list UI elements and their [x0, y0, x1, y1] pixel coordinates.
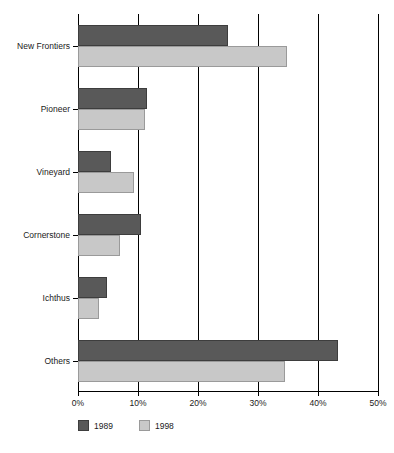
gridline — [138, 14, 139, 392]
bar-1989 — [78, 151, 111, 172]
x-axis-tick — [378, 392, 379, 396]
x-axis-line — [78, 391, 379, 392]
category-label: Ichthus — [43, 293, 70, 303]
bar-1998 — [78, 361, 285, 382]
category-label: Others — [44, 356, 70, 366]
legend-item[interactable]: 1998 — [139, 420, 174, 431]
legend-swatch-icon — [139, 420, 150, 431]
bar-1998 — [78, 235, 120, 256]
gridline — [378, 14, 379, 392]
category-tick — [73, 361, 78, 362]
bar-1989 — [78, 340, 338, 361]
legend-item[interactable]: 1989 — [78, 420, 113, 431]
bar-group: Pioneer — [78, 88, 378, 130]
bar-1989 — [78, 25, 228, 46]
chart-legend: 19891998 — [78, 420, 174, 431]
plot-area: 0%10%20%30%40%50% New FrontiersPioneerVi… — [78, 14, 378, 392]
category-tick — [73, 172, 78, 173]
bar-1989 — [78, 214, 141, 235]
gridline — [318, 14, 319, 392]
x-axis-tick — [138, 392, 139, 396]
bar-group: Cornerstone — [78, 214, 378, 256]
x-axis-tick — [318, 392, 319, 396]
bar-1998 — [78, 46, 287, 67]
bar-1989 — [78, 277, 107, 298]
bar-1998 — [78, 109, 145, 130]
bar-1998 — [78, 298, 99, 319]
x-axis-tick-label: 0% — [58, 398, 98, 408]
bar-group: Ichthus — [78, 277, 378, 319]
category-label: Vineyard — [37, 167, 70, 177]
category-label: New Frontiers — [17, 41, 70, 51]
x-axis-tick-label: 50% — [358, 398, 394, 408]
category-tick — [73, 46, 78, 47]
legend-label: 1998 — [155, 421, 174, 431]
legend-label: 1989 — [94, 421, 113, 431]
bar-1989 — [78, 88, 147, 109]
x-axis-tick — [258, 392, 259, 396]
x-axis-tick-label: 10% — [118, 398, 158, 408]
bar-group: New Frontiers — [78, 25, 378, 67]
gridline — [258, 14, 259, 392]
bar-chart: 1989 and 1998 0%10%20%30%40%50% New Fron… — [0, 0, 394, 453]
category-label: Cornerstone — [23, 230, 70, 240]
x-axis-tick-label: 20% — [178, 398, 218, 408]
category-label: Pioneer — [41, 104, 70, 114]
x-axis-tick-label: 40% — [298, 398, 338, 408]
x-axis-tick — [78, 392, 79, 396]
category-tick — [73, 298, 78, 299]
bar-1998 — [78, 172, 134, 193]
legend-swatch-icon — [78, 420, 89, 431]
category-tick — [73, 109, 78, 110]
gridline — [198, 14, 199, 392]
x-axis-tick-label: 30% — [238, 398, 278, 408]
y-axis-line — [78, 14, 79, 392]
category-tick — [73, 235, 78, 236]
bar-group: Vineyard — [78, 151, 378, 193]
chart-title: 1989 and 1998 — [0, 0, 394, 3]
bar-group: Others — [78, 340, 378, 382]
x-axis-tick — [198, 392, 199, 396]
